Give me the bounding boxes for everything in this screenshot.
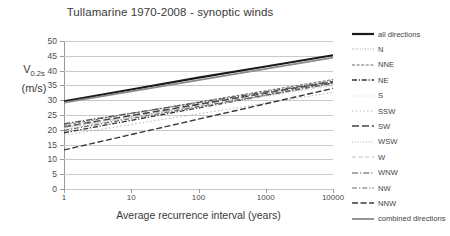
legend-item[interactable]: combined directions	[352, 213, 446, 225]
legend-swatch-icon	[352, 60, 374, 70]
legend-item[interactable]: NNE	[352, 59, 394, 71]
legend-item[interactable]: NNW	[352, 197, 396, 209]
legend-item[interactable]: WSW	[352, 136, 397, 148]
legend-swatch-icon	[352, 214, 374, 224]
legend-swatch-icon	[352, 106, 374, 116]
legend-label: combined directions	[378, 214, 446, 223]
legend-label: NNW	[378, 199, 396, 208]
series-line	[64, 93, 333, 136]
legend-label: S	[378, 91, 383, 100]
wind-speed-chart: Tullamarine 1970-2008 - synoptic winds V…	[0, 0, 450, 236]
legend-swatch-icon	[352, 44, 374, 54]
legend-swatch-icon	[352, 121, 374, 131]
legend-item[interactable]: W	[352, 151, 385, 163]
legend-label: SW	[378, 122, 390, 131]
legend-swatch-icon	[352, 168, 374, 178]
legend-label: N	[378, 45, 383, 54]
legend-item[interactable]: S	[352, 90, 383, 102]
x-tick-label: 1000	[257, 193, 275, 202]
chart-title: Tullamarine 1970-2008 - synoptic winds	[0, 6, 340, 18]
legend-label: NE	[378, 76, 389, 85]
legend-swatch-icon	[352, 75, 374, 85]
legend-item[interactable]: WNW	[352, 167, 398, 179]
series-line	[64, 82, 333, 127]
series-line	[64, 58, 333, 103]
y-tick-label: 45	[48, 51, 57, 61]
x-tick-label: 10	[127, 193, 136, 202]
legend-swatch-icon	[352, 29, 374, 39]
legend-label: NNE	[378, 60, 394, 69]
legend-swatch-icon	[352, 91, 374, 101]
legend-label: W	[378, 153, 385, 162]
legend-item[interactable]: NW	[352, 182, 391, 194]
legend-label: SSW	[378, 107, 395, 116]
y-axis-title-unit: (m/s)	[21, 82, 46, 94]
series-line	[64, 88, 333, 150]
legend-swatch-icon	[352, 183, 374, 193]
series-line	[64, 55, 333, 101]
y-tick-label: 30	[48, 95, 57, 105]
legend-item[interactable]: N	[352, 43, 383, 55]
y-tick-label: 40	[48, 66, 57, 76]
legend-swatch-icon	[352, 137, 374, 147]
y-tick-label: 50	[48, 36, 57, 46]
legend-item[interactable]: NE	[352, 74, 389, 86]
legend-swatch-icon	[352, 152, 374, 162]
y-tick-label: 5	[52, 169, 57, 179]
legend-label: WSW	[378, 137, 397, 146]
y-tick-label: 15	[48, 140, 57, 150]
y-axis-title-subscript: 0.2s	[31, 69, 45, 78]
legend-swatch-icon	[352, 198, 374, 208]
y-tick-label: 0	[52, 184, 57, 194]
series-line	[64, 83, 333, 130]
y-axis-title-main: V	[23, 63, 30, 75]
legend-item[interactable]: SW	[352, 120, 390, 132]
y-tick-label: 20	[48, 125, 57, 135]
y-tick-label: 10	[48, 154, 57, 164]
x-tick-label: 10000	[322, 193, 344, 202]
x-tick-label: 1	[62, 193, 66, 202]
legend-label: all directions	[378, 30, 420, 39]
y-tick-label: 25	[48, 110, 57, 120]
data-series-layer	[64, 41, 333, 189]
legend-item[interactable]: all directions	[352, 28, 420, 40]
legend-item[interactable]: SSW	[352, 105, 395, 117]
x-axis-title: Average recurrence interval (years)	[64, 209, 333, 221]
legend-label: WNW	[378, 168, 398, 177]
plot-area: 05101520253035404550 110100100010000	[64, 41, 333, 189]
series-line	[64, 81, 333, 124]
legend-label: NW	[378, 184, 391, 193]
x-tick-label: 100	[192, 193, 205, 202]
y-tick-label: 35	[48, 80, 57, 90]
